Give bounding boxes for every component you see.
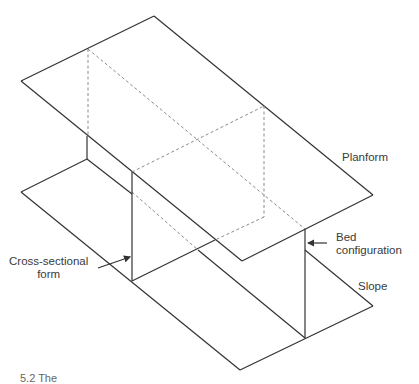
bed-configuration-line2: configuration <box>336 244 402 257</box>
cross-sectional-form-label: Cross-sectional form <box>9 255 88 281</box>
hidden-edges <box>88 49 305 250</box>
cross-section <box>87 136 305 338</box>
figure-caption-partial: 5.2 The <box>20 372 57 384</box>
planform-label: Planform <box>342 151 388 164</box>
cross-section-line1: Cross-sectional <box>9 255 88 268</box>
cross-section-line2: form <box>9 268 88 281</box>
slope-label: Slope <box>358 280 387 293</box>
bed-configuration-line1: Bed <box>336 231 402 244</box>
planform-plane <box>21 16 373 261</box>
bed-configuration-label: Bed configuration <box>336 231 402 257</box>
